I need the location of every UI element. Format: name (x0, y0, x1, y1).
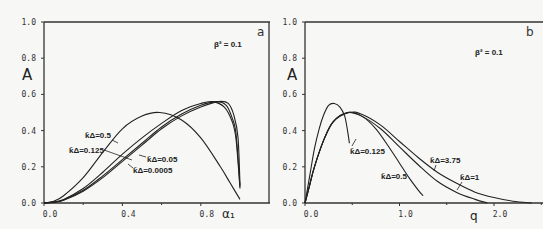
panel-a-beta-annotation: β² = 0.1 (214, 40, 242, 49)
panel-a-y-ticks: 0.00.20.40.60.81.0 (22, 18, 44, 208)
x-tick-label: 2.0 (493, 210, 508, 219)
curve-0.5 (44, 112, 240, 203)
panel-a-x-ticks: 0.00.40.8 (43, 203, 214, 219)
panel-a-leader (112, 140, 118, 143)
x-tick-label: 0.0 (304, 210, 319, 219)
panel-b-label-kd-0.125: k̃Δ=0.125 (350, 147, 385, 156)
curve-0.5 (305, 112, 423, 203)
panel-a-label-kd-0.125: k̃Δ=0.125 (69, 146, 104, 155)
curve-3.75 (305, 112, 532, 203)
y-tick-label: 0.0 (283, 199, 298, 208)
x-tick-label: 0.8 (200, 210, 215, 219)
panel-b-beta-annotation: β² = 0.1 (475, 48, 503, 57)
panel-b-x-label: q (470, 209, 478, 223)
y-tick-label: 0.6 (283, 90, 298, 99)
y-tick-label: 0.2 (22, 163, 37, 172)
panel-b-curves (305, 103, 532, 203)
panel-a-x-label: α₁ (222, 207, 235, 221)
panel-b-leader (352, 139, 356, 146)
panel-a: 0.00.20.40.60.81.0 0.00.40.8 A α₁ a β² =… (22, 18, 270, 221)
panel-a-letter: a (257, 25, 264, 39)
y-tick-label: 1.0 (22, 18, 37, 27)
x-tick-label: 0.4 (121, 210, 136, 219)
y-tick-label: 0.4 (22, 127, 37, 136)
panel-b-y-label: A (287, 66, 298, 84)
panel-b-label-kd-3.75: k̃Δ=3.75 (430, 156, 461, 165)
figure: 0.00.20.40.60.81.0 0.00.40.8 A α₁ a β² =… (0, 0, 543, 229)
panel-a-label-kd-0.05: k̃Δ=0.05 (147, 155, 178, 164)
y-tick-label: 0.4 (283, 127, 298, 136)
y-tick-label: 1.0 (283, 18, 298, 27)
panel-b-x-ticks: 0.01.02.0 (304, 203, 541, 219)
panel-b-label-kd-0.5: k̃Δ=0.5 (381, 172, 408, 181)
panel-b: 0.00.20.40.60.81.0 0.01.02.0 A q b β² = … (283, 18, 543, 223)
panel-a-label-kd-0.5: k̃Δ=0.5 (85, 131, 112, 140)
panel-a-y-label: A (22, 66, 33, 84)
y-tick-label: 0.6 (22, 90, 37, 99)
panel-b-letter: b (526, 25, 534, 39)
panel-b-y-ticks: 0.00.20.40.60.81.0 (283, 18, 305, 208)
x-tick-label: 0.0 (43, 210, 58, 219)
panel-a-label-kd-0.0005: k̃Δ=0.0005 (133, 166, 173, 175)
panel-a-leader (139, 155, 146, 157)
y-tick-label: 0.0 (22, 199, 37, 208)
y-tick-label: 0.2 (283, 163, 298, 172)
panel-b-label-kd-1: k̃Δ=1 (460, 173, 480, 182)
y-tick-label: 0.8 (283, 54, 298, 63)
x-tick-label: 1.0 (398, 210, 413, 219)
curve-0.125 (305, 103, 349, 203)
y-tick-label: 0.8 (22, 54, 37, 63)
